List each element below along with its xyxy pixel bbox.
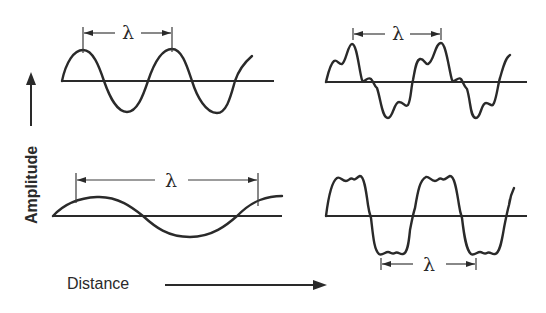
wavelength-bracket: λ bbox=[83, 21, 172, 53]
distance-label: Distance bbox=[67, 275, 129, 292]
wavelength-label: λ bbox=[165, 169, 177, 191]
wavelength-bracket: λ bbox=[76, 169, 258, 206]
wavelength-bracket: λ bbox=[381, 253, 476, 275]
panel-top-left: λ bbox=[62, 21, 274, 113]
amplitude-label: Amplitude bbox=[23, 146, 40, 224]
distance-arrow-icon bbox=[313, 280, 327, 290]
wavelength-label: λ bbox=[423, 253, 435, 275]
panel-top-right: λ bbox=[325, 22, 527, 118]
amplitude-arrow-icon bbox=[26, 72, 36, 85]
wavelength-label: λ bbox=[392, 22, 404, 44]
distance-axis: Distance bbox=[67, 275, 327, 292]
panel-bottom-right: λ bbox=[325, 176, 527, 275]
panel-bottom-left: λ bbox=[53, 169, 282, 237]
wavelength-label: λ bbox=[122, 21, 134, 43]
wavelength-bracket: λ bbox=[353, 22, 441, 44]
diagram-canvas: λ λ bbox=[0, 0, 546, 313]
complex-wave bbox=[326, 43, 510, 118]
amplitude-axis: Amplitude bbox=[23, 72, 40, 224]
waveform-diagram: λ λ bbox=[0, 0, 546, 313]
